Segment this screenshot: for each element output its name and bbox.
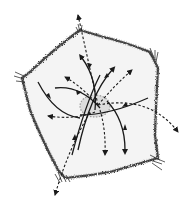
diagram-canvas [0, 0, 191, 208]
cell-diagram [0, 0, 191, 208]
